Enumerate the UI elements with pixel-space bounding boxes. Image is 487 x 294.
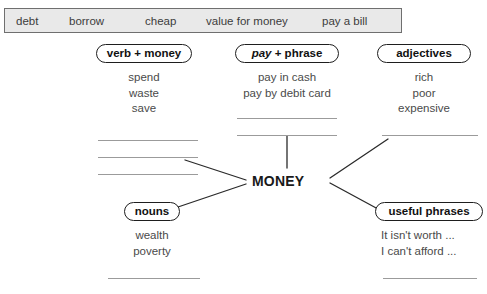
- branch-item: pay by debit card: [225, 86, 349, 102]
- branch-label-useful-phrases-text: useful phrases: [388, 205, 469, 217]
- connector-useful-phrases: [330, 183, 378, 209]
- blank-line-pay-phrase-1[interactable]: [237, 118, 337, 119]
- branch-label-useful-phrases[interactable]: useful phrases: [375, 202, 483, 221]
- blank-line-verb-money-3[interactable]: [98, 174, 198, 175]
- word-bank-item-cheap: cheap: [145, 15, 176, 27]
- branch-label-nouns[interactable]: nouns: [124, 202, 180, 221]
- word-bank-item-borrow: borrow: [69, 15, 104, 27]
- branch-items-useful-phrases: It isn't worth ... I can't afford ...: [381, 228, 487, 259]
- branch-item: save: [96, 101, 192, 117]
- connector-adjectives: [330, 139, 388, 178]
- connector-nouns: [178, 184, 246, 207]
- branch-label-adjectives[interactable]: adjectives: [377, 44, 471, 63]
- branch-item: wealth: [110, 228, 194, 244]
- branch-items-nouns: wealth poverty: [110, 228, 194, 259]
- center-node-money: MONEY: [252, 173, 304, 189]
- branch-label-nouns-text: nouns: [135, 205, 170, 217]
- branch-label-pay-phrase-italic: pay: [252, 47, 272, 59]
- blank-line-pay-phrase-2[interactable]: [237, 135, 337, 136]
- branch-label-pay-phrase-text: + phrase: [272, 47, 323, 59]
- word-bank-item-value-for-money: value for money: [206, 15, 288, 27]
- word-bank: debt borrow cheap value for money pay a …: [4, 8, 402, 33]
- branch-items-adjectives: rich poor expensive: [377, 70, 471, 117]
- branch-item: waste: [96, 86, 192, 102]
- branch-item: rich: [377, 70, 471, 86]
- worksheet-canvas: debt borrow cheap value for money pay a …: [0, 0, 487, 294]
- branch-item: spend: [96, 70, 192, 86]
- branch-items-verb-money: spend waste save: [96, 70, 192, 117]
- blank-line-verb-money-1[interactable]: [98, 140, 198, 141]
- branch-item: pay in cash: [225, 70, 349, 86]
- branch-label-adjectives-text: adjectives: [396, 47, 452, 59]
- blank-line-adjectives-1[interactable]: [382, 135, 478, 136]
- connector-verb-money: [185, 160, 246, 180]
- branch-item: It isn't worth ...: [381, 228, 487, 244]
- branch-item: expensive: [377, 101, 471, 117]
- blank-line-verb-money-2[interactable]: [98, 157, 198, 158]
- branch-label-verb-money-text: verb + money: [107, 47, 181, 59]
- blank-line-useful-phrases-1[interactable]: [383, 278, 477, 279]
- branch-label-pay-phrase[interactable]: pay + phrase: [235, 44, 339, 63]
- word-bank-item-debt: debt: [16, 15, 38, 27]
- branch-label-verb-money[interactable]: verb + money: [96, 44, 192, 63]
- branch-item: poor: [377, 86, 471, 102]
- blank-line-nouns-1[interactable]: [108, 278, 200, 279]
- branch-item: poverty: [110, 244, 194, 260]
- word-bank-item-pay-a-bill: pay a bill: [322, 15, 367, 27]
- branch-items-pay-phrase: pay in cash pay by debit card: [225, 70, 349, 101]
- branch-item: I can't afford ...: [381, 244, 487, 260]
